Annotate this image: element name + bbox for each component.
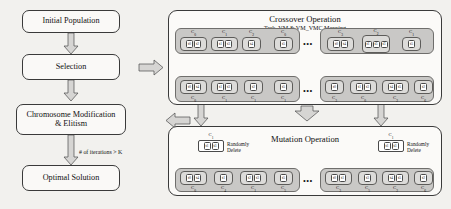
vmc-label: C6 [414, 96, 433, 103]
task-cell[interactable]: t2 [420, 83, 427, 91]
task-cell[interactable]: t5 [280, 174, 287, 182]
task-cell[interactable]: t5 [396, 174, 403, 182]
task-cell[interactable]: t1 [220, 174, 227, 182]
vmc-group[interactable]: t1 t3 [350, 80, 377, 94]
flow-node-chromosome-modification[interactable]: Chromosome Modification & Elitism [16, 104, 126, 135]
randomly-delete-left: Randomly Delete [227, 141, 249, 153]
vmc-group[interactable]: t0 t4 [180, 171, 207, 185]
parent-chromosome-left[interactable]: t0 t2 C0 t1 t3 C1 t4 C2 t5 C0 [175, 28, 300, 54]
mutation-detail-right-label: C1 [378, 133, 404, 140]
flow-node-initial-population[interactable]: Initial Population [22, 10, 120, 33]
vmc-group[interactable]: t0 t2 [180, 37, 207, 51]
crossover-offspring-ellipsis: ••• [303, 88, 313, 96]
crossover-parent-ellipsis: ••• [303, 41, 313, 49]
offspring-chromosome-right[interactable]: t0 C3 t1 t3 C0 t4 t5 C2 t2 C6 [320, 76, 434, 102]
task-cell[interactable]: t1 [384, 142, 391, 150]
vmc-group[interactable]: t1 t3 [211, 80, 238, 94]
task-cell[interactable]: t3 [225, 40, 232, 48]
mutation-detail-right-box[interactable]: t1 t3 [378, 140, 404, 152]
task-cell[interactable]: t4 [388, 83, 395, 91]
vmc-group[interactable]: t0 t4 [180, 80, 207, 94]
iteration-condition-label: # of iterations > K [79, 149, 122, 155]
vmc-group[interactable]: t1 t5 t3 [362, 35, 390, 53]
vmc-group[interactable]: t1 [214, 171, 233, 185]
task-cell[interactable]: t0 [331, 83, 338, 91]
offspring-chromosome-left[interactable]: t0 t4 C0 t1 t3 C1 t2 C1 t5 C1 [175, 76, 300, 102]
task-cell[interactable]: t4 [194, 174, 201, 182]
task-cell[interactable]: t1 [217, 83, 224, 91]
randomly-delete-right: Randomly Delete [407, 141, 429, 153]
task-cell[interactable]: t3 [381, 41, 388, 48]
flow-node-selection[interactable]: Selection [22, 54, 120, 80]
task-cell[interactable]: t0 [331, 174, 338, 182]
vmc-label: C4 [214, 186, 233, 193]
task-cell[interactable]: t1 [204, 142, 211, 150]
task-cell[interactable]: t2 [420, 174, 427, 182]
diagram-canvas: Initial Population Selection Chromosome … [0, 0, 451, 209]
mutation-ellipsis: ••• [303, 178, 313, 186]
flow-node-label-line2: & Elitism [55, 120, 87, 129]
task-cell[interactable]: t3 [392, 142, 399, 150]
task-cell[interactable]: t1 [356, 83, 363, 91]
vmc-label: C1 [244, 96, 263, 103]
vmc-label: C3 [327, 30, 354, 37]
task-cell[interactable]: t5 [408, 40, 415, 48]
task-cell[interactable]: t4 [194, 83, 201, 91]
flow-node-optimal-solution[interactable]: Optimal Solution [22, 165, 120, 191]
mutation-detail-left-box[interactable]: t1 t3 [198, 140, 224, 152]
vmc-group[interactable]: t4 [242, 37, 261, 51]
randomly-delete-line2: Delete [407, 147, 421, 153]
mutation-detail-left-label: C1 [198, 133, 224, 140]
task-cell[interactable]: t5 [373, 41, 380, 48]
task-cell[interactable]: t3 [212, 142, 219, 150]
task-cell[interactable]: t0 [186, 174, 193, 182]
task-cell[interactable]: t5 [280, 83, 287, 91]
vmc-label: C1 [240, 186, 267, 193]
vmc-group[interactable]: t4 t5 [382, 171, 409, 185]
vmc-group[interactable]: t0 t4 [327, 37, 354, 51]
mutation-chromosome-right[interactable]: t0 t1 C3 t3 C5 t4 t5 C2 t2 C6 [320, 168, 434, 192]
vmc-group[interactable]: t2 [414, 171, 433, 185]
task-cell[interactable]: t2 [250, 83, 257, 91]
task-cell[interactable]: t5 [280, 40, 287, 48]
vmc-group[interactable]: t5 [402, 37, 421, 51]
task-cell[interactable]: t0 [333, 40, 340, 48]
task-cell[interactable]: t4 [341, 40, 348, 48]
vmc-label: C0 [180, 30, 207, 37]
vmc-label: C1 [402, 30, 421, 37]
task-cell[interactable]: t1 [365, 41, 372, 48]
task-cell[interactable]: t0 [186, 83, 193, 91]
vmc-group[interactable]: t2 [414, 80, 433, 94]
task-cell[interactable]: t2 [194, 40, 201, 48]
mutation-chromosome-left[interactable]: t0 t4 C0 t1 C4 t2 t3 C1 t5 C5 [175, 168, 300, 192]
vmc-label: C1 [274, 96, 293, 103]
crossover-title: Crossover Operation [169, 14, 441, 24]
vmc-group[interactable]: t0 [325, 80, 344, 94]
vmc-label: C5 [274, 186, 293, 193]
task-cell[interactable]: t3 [254, 174, 261, 182]
vmc-group[interactable]: t4 t5 [382, 80, 409, 94]
vmc-group[interactable]: t5 [274, 171, 293, 185]
vmc-group[interactable]: t0 t1 [325, 171, 352, 185]
vmc-group[interactable]: t2 [244, 80, 263, 94]
vmc-label: C2 [242, 30, 261, 37]
task-cell[interactable]: t5 [396, 83, 403, 91]
vmc-group[interactable]: t5 [274, 80, 293, 94]
parent-chromosome-right[interactable]: t0 t4 C3 t1 t5 t3 C2 t5 C1 [320, 28, 434, 54]
task-cell[interactable]: t2 [246, 174, 253, 182]
task-cell[interactable]: t1 [217, 40, 224, 48]
task-cell[interactable]: t1 [339, 174, 346, 182]
vmc-group[interactable]: t5 [274, 37, 293, 51]
task-cell[interactable]: t3 [364, 174, 371, 182]
vmc-label: C0 [180, 96, 207, 103]
task-cell[interactable]: t3 [364, 83, 371, 91]
vmc-label: C3 [325, 186, 352, 193]
vmc-group[interactable]: t2 t3 [240, 171, 267, 185]
vmc-group[interactable]: t3 [358, 171, 377, 185]
task-cell[interactable]: t0 [186, 40, 193, 48]
task-cell[interactable]: t4 [248, 40, 255, 48]
vmc-group[interactable]: t1 t3 [211, 37, 238, 51]
vmc-label: C5 [358, 186, 377, 193]
task-cell[interactable]: t3 [225, 83, 232, 91]
task-cell[interactable]: t4 [388, 174, 395, 182]
